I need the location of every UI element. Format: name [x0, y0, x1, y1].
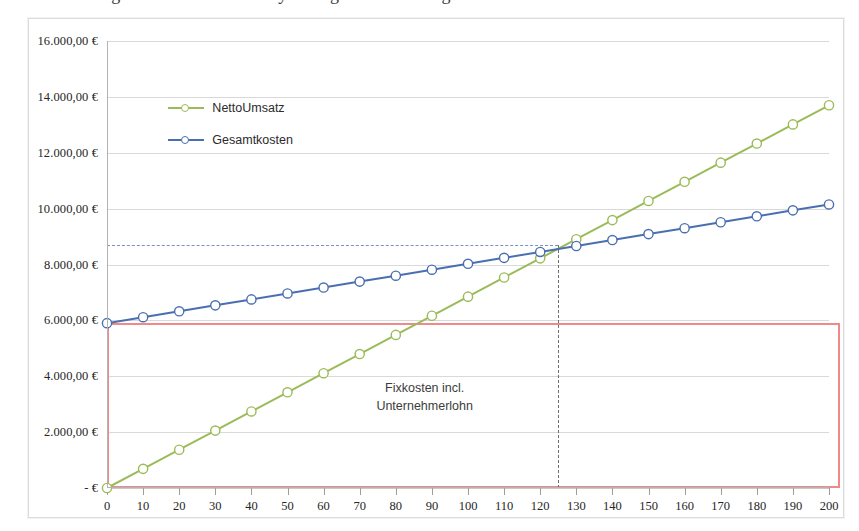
series-marker: [427, 311, 436, 320]
x-axis-line: [107, 487, 829, 488]
x-axis-tick: [215, 488, 216, 495]
series-marker: [247, 407, 256, 416]
cropped-caption-text: Abbildung 1: Break-Even-Analyse Gegenübe…: [0, 0, 859, 16]
series-marker: [752, 139, 761, 148]
x-axis-tick-label: 70: [353, 499, 366, 514]
x-axis-tick: [721, 488, 722, 495]
x-axis-tick: [504, 488, 505, 495]
chart-frame: - €2.000,00 €4.000,00 €6.000,00 €8.000,0…: [28, 18, 844, 518]
x-axis-tick: [432, 488, 433, 495]
y-axis-tick-label: 6.000,00 €: [44, 313, 107, 328]
cropped-caption-label: Abbildung 1: Break-Even-Analyse Gegenübe…: [40, 0, 605, 5]
series-marker: [644, 230, 653, 239]
series-marker: [283, 388, 292, 397]
x-axis-tick-label: 120: [531, 499, 550, 514]
series-marker: [427, 265, 436, 274]
series-marker: [247, 295, 256, 304]
y-axis-tick-label: 2.000,00 €: [44, 425, 107, 440]
x-axis-tick-label: 10: [137, 499, 150, 514]
x-axis-tick: [468, 488, 469, 495]
legend-label: Gesamtkosten: [212, 133, 293, 147]
x-axis-tick: [757, 488, 758, 495]
series-marker: [211, 301, 220, 310]
series-marker: [175, 307, 184, 316]
x-axis-tick-label: 190: [784, 499, 803, 514]
series-marker: [824, 200, 833, 209]
series-marker: [139, 464, 148, 473]
series-marker: [319, 283, 328, 292]
series-marker: [139, 313, 148, 322]
legend-item-1[interactable]: NettoUmsatz: [168, 98, 293, 118]
series-marker: [680, 177, 689, 186]
series-marker: [355, 349, 364, 358]
x-axis-tick: [540, 488, 541, 495]
series-marker: [463, 292, 472, 301]
x-axis-tick-label: 110: [495, 499, 513, 514]
series-marker: [752, 212, 761, 221]
x-axis-tick-label: 20: [173, 499, 186, 514]
chart-legend: NettoUmsatzGesamtkosten: [168, 98, 293, 162]
series-marker: [680, 224, 689, 233]
x-axis-tick-label: 150: [639, 499, 658, 514]
x-axis-tick-label: 60: [317, 499, 330, 514]
series-marker: [716, 158, 725, 167]
fixkosten-annotation-line1: Fixkosten incl.: [376, 379, 473, 397]
series-marker: [319, 369, 328, 378]
series-marker: [788, 206, 797, 215]
series-marker: [391, 330, 400, 339]
x-axis-tick-label: 180: [747, 499, 766, 514]
series-marker: [608, 235, 617, 244]
fixkosten-annotation-line2: Unternehmerlohn: [376, 397, 473, 415]
x-axis-tick-label: 100: [459, 499, 478, 514]
x-axis-tick: [612, 488, 613, 495]
x-axis-tick: [685, 488, 686, 495]
legend-label: NettoUmsatz: [212, 101, 284, 115]
x-axis-tick: [396, 488, 397, 495]
chart-page: Abbildung 1: Break-Even-Analyse Gegenübe…: [0, 0, 859, 531]
x-axis-tick-label: 90: [426, 499, 439, 514]
x-axis-tick: [360, 488, 361, 495]
x-axis-tick-label: 50: [281, 499, 294, 514]
x-axis-tick-label: 130: [567, 499, 586, 514]
fixkosten-annotation: Fixkosten incl. Unternehmerlohn: [376, 379, 473, 415]
y-axis-tick-label: 16.000,00 €: [38, 34, 107, 49]
x-axis-tick-label: 200: [820, 499, 839, 514]
x-axis-tick-label: 160: [675, 499, 694, 514]
y-axis-tick-label: 12.000,00 €: [38, 145, 107, 160]
series-marker: [463, 259, 472, 268]
x-axis-tick-label: 40: [245, 499, 258, 514]
series-marker: [283, 289, 292, 298]
x-axis-tick: [324, 488, 325, 495]
series-marker: [644, 196, 653, 205]
y-axis-line: [107, 41, 108, 488]
x-axis-tick-label: 170: [711, 499, 730, 514]
legend-item-2[interactable]: Gesamtkosten: [168, 130, 293, 150]
x-axis-tick: [829, 488, 830, 495]
x-axis-tick: [576, 488, 577, 495]
x-axis-tick: [251, 488, 252, 495]
y-axis-tick-label: 10.000,00 €: [38, 201, 107, 216]
series-marker: [608, 215, 617, 224]
series-marker: [500, 273, 509, 282]
x-axis-tick-label: 140: [603, 499, 622, 514]
series-marker: [716, 218, 725, 227]
y-axis-tick-label: 14.000,00 €: [38, 89, 107, 104]
legend-swatch-icon: [168, 102, 204, 114]
series-marker: [500, 253, 509, 262]
x-axis-tick: [288, 488, 289, 495]
x-axis-tick-label: 80: [390, 499, 403, 514]
x-axis-tick-label: 30: [209, 499, 222, 514]
series-marker: [355, 277, 364, 286]
y-axis-tick-label: 8.000,00 €: [44, 257, 107, 272]
series-marker: [175, 445, 184, 454]
series-marker: [572, 241, 581, 250]
series-marker: [211, 426, 220, 435]
x-axis-tick-label: 0: [104, 499, 110, 514]
series-marker: [391, 271, 400, 280]
y-axis-tick-label: 4.000,00 €: [44, 369, 107, 384]
series-marker: [536, 247, 545, 256]
x-axis-tick: [793, 488, 794, 495]
x-axis-tick: [179, 488, 180, 495]
x-axis-tick: [143, 488, 144, 495]
x-axis-tick: [649, 488, 650, 495]
